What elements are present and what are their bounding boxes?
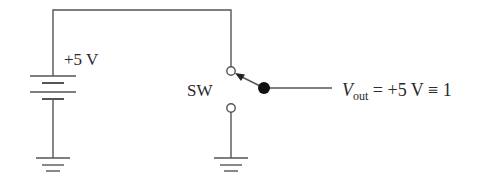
switch-bottom-contact <box>227 104 235 112</box>
switch-pivot-dot <box>258 82 270 94</box>
switch-top-contact <box>227 67 235 75</box>
ground-right-icon <box>214 158 248 171</box>
ground-left-icon <box>36 158 70 171</box>
output-label: Vout = +5 V ≡ 1 <box>342 80 452 103</box>
circuit-diagram: +5 V SW Vout = +5 V ≡ 1 <box>0 0 488 187</box>
output-expression: = +5 V ≡ 1 <box>368 80 451 100</box>
supply-label: +5 V <box>64 50 99 69</box>
switch-label: SW <box>187 81 213 100</box>
output-subscript: out <box>353 89 369 103</box>
battery-symbol <box>30 76 76 99</box>
